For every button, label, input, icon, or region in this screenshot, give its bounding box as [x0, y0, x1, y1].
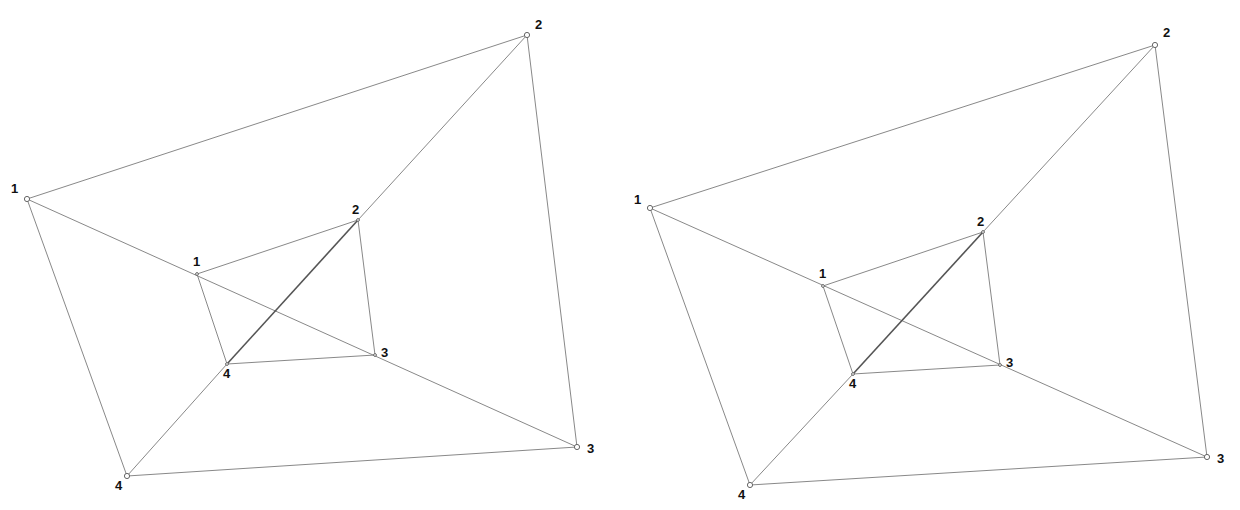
outer-vertex-label-1: 1: [11, 181, 18, 196]
right-figure: 12341234: [634, 25, 1224, 502]
left-figure: 12341234: [11, 17, 594, 493]
outer-edge: [127, 447, 577, 476]
outer-vertex-4: [747, 482, 752, 487]
inner-vertex-1: [196, 273, 199, 276]
inner-edge: [823, 286, 853, 374]
inner-vertex-label-3: 3: [1006, 355, 1013, 370]
outer-vertex-1: [24, 196, 29, 201]
inner-vertex-label-2: 2: [352, 202, 359, 217]
inner-vertex-4: [226, 363, 229, 366]
outer-vertex-2: [524, 32, 529, 37]
inner-edge: [853, 365, 1000, 374]
inner-edge: [358, 220, 375, 355]
outer-vertex-label-3: 3: [587, 441, 594, 456]
inner-vertex-label-4: 4: [849, 376, 857, 391]
outer-edge: [527, 35, 577, 447]
inner-vertex-1: [822, 285, 825, 288]
inner-edge: [227, 355, 375, 364]
perspective-quadrilateral-diagram: 1234123412341234: [0, 0, 1240, 510]
inner-vertex-2: [357, 219, 360, 222]
outer-edge: [27, 199, 127, 476]
outer-vertex-label-2: 2: [1163, 25, 1170, 40]
outer-vertex-label-4: 4: [115, 478, 123, 493]
outer-edge: [650, 208, 750, 485]
outer-vertex-3: [574, 444, 579, 449]
outer-vertex-4: [124, 473, 129, 478]
inner-vertex-label-4: 4: [223, 366, 231, 381]
outer-vertex-label-1: 1: [634, 192, 641, 207]
diagonal-4-2: [750, 374, 853, 485]
outer-edge: [650, 45, 1155, 208]
inner-edge: [983, 232, 1000, 365]
inner-vertex-4: [852, 373, 855, 376]
diagonal-4-2: [127, 364, 227, 476]
diagonal-1-3: [27, 199, 577, 447]
outer-vertex-label-3: 3: [1217, 451, 1224, 466]
outer-vertex-3: [1204, 454, 1209, 459]
diagonal-4-2-inner: [853, 232, 983, 374]
outer-vertex-2: [1152, 42, 1157, 47]
diagonal-1-3: [650, 208, 1207, 457]
outer-edge: [1155, 45, 1207, 457]
inner-vertex-label-1: 1: [819, 266, 826, 281]
outer-vertex-label-4: 4: [738, 487, 746, 502]
inner-vertex-label-3: 3: [381, 345, 388, 360]
inner-vertex-3: [374, 354, 377, 357]
inner-vertex-3: [999, 364, 1002, 367]
inner-vertex-2: [982, 231, 985, 234]
inner-vertex-label-1: 1: [193, 254, 200, 269]
outer-edge: [750, 457, 1207, 485]
outer-vertex-1: [647, 205, 652, 210]
inner-vertex-label-2: 2: [977, 214, 984, 229]
outer-vertex-label-2: 2: [535, 17, 542, 32]
